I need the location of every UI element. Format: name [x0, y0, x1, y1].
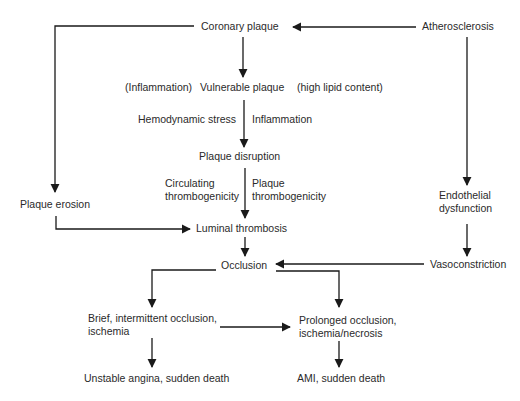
label-circulating-line2: thrombogenicity	[165, 190, 239, 203]
label-plaque-thromb-line1: Plaque	[252, 177, 326, 190]
node-brief-occlusion: Brief, intermittent occlusion, ischemia	[88, 312, 217, 338]
node-luminal-thrombosis: Luminal thrombosis	[196, 222, 287, 235]
node-plaque-erosion: Plaque erosion	[20, 198, 90, 211]
node-ami: AMI, sudden death	[297, 372, 385, 385]
label-inflammation: Inflammation	[252, 113, 312, 126]
node-plaque-disruption: Plaque disruption	[199, 150, 280, 163]
label-circulating-line1: Circulating	[165, 177, 239, 190]
node-brief-line1: Brief, intermittent occlusion,	[88, 312, 217, 325]
label-hemodynamic-stress: Hemodynamic stress	[138, 113, 236, 126]
node-coronary-plaque: Coronary plaque	[201, 20, 279, 33]
node-occlusion: Occlusion	[221, 259, 267, 272]
edge-erosion-thrombosis	[56, 216, 190, 229]
node-atherosclerosis: Atherosclerosis	[422, 20, 494, 33]
node-endothelial-line2: dysfunction	[439, 202, 492, 215]
label-high-lipid: (high lipid content)	[297, 81, 383, 94]
edge-occlusion-prolonged	[276, 271, 339, 307]
edge-occlusion-brief	[152, 270, 216, 307]
node-endothelial-line1: Endothelial	[439, 189, 492, 202]
node-vasoconstriction: Vasoconstriction	[430, 258, 506, 271]
node-brief-line2: ischemia	[88, 325, 217, 338]
node-prolonged-line2: ischemia/necrosis	[299, 327, 396, 340]
label-plaque-thrombogenicity: Plaque thrombogenicity	[252, 177, 326, 203]
node-endothelial-dysfunction: Endothelial dysfunction	[439, 189, 492, 215]
node-unstable-angina: Unstable angina, sudden death	[84, 372, 229, 385]
node-prolonged-occlusion: Prolonged occlusion, ischemia/necrosis	[299, 314, 396, 340]
label-plaque-thromb-line2: thrombogenicity	[252, 190, 326, 203]
label-circulating-thrombogenicity: Circulating thrombogenicity	[165, 177, 239, 203]
node-vulnerable-plaque: Vulnerable plaque	[200, 81, 284, 94]
label-inflammation-paren: (Inflammation)	[125, 81, 192, 94]
node-prolonged-line1: Prolonged occlusion,	[299, 314, 396, 327]
edge-coronary-erosion	[55, 26, 194, 192]
